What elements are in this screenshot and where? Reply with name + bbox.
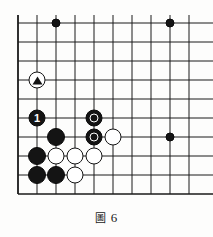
stone-black-circle-marked[interactable] [86, 110, 103, 127]
caption-label: 圖 [95, 212, 107, 225]
go-board: 1 [0, 0, 213, 207]
go-figure: 1 圖 6 [0, 0, 213, 237]
triangle-mark-icon [32, 76, 42, 84]
stone-black[interactable] [47, 128, 65, 146]
stone-black[interactable] [47, 166, 65, 184]
stone-white[interactable] [67, 148, 84, 165]
circle-mark-icon [90, 133, 99, 142]
stone-white[interactable] [86, 148, 103, 165]
board-point-black[interactable] [166, 19, 175, 28]
stone-black-circle-marked[interactable] [86, 129, 103, 146]
stone-white-triangle-marked[interactable] [29, 72, 46, 89]
stone-black[interactable] [28, 147, 46, 165]
board-point-black[interactable] [166, 133, 175, 142]
stone-white[interactable] [48, 148, 65, 165]
caption-number: 6 [111, 210, 119, 225]
stones-layer: 1 [0, 0, 213, 207]
stone-white[interactable] [67, 167, 84, 184]
stone-white[interactable] [105, 129, 122, 146]
board-point-black[interactable] [52, 19, 61, 28]
figure-caption: 圖 6 [0, 209, 213, 226]
move-number-label: 1 [34, 113, 40, 124]
circle-mark-icon [90, 114, 99, 123]
stone-black-move-1[interactable]: 1 [29, 110, 46, 127]
stone-black[interactable] [28, 166, 46, 184]
